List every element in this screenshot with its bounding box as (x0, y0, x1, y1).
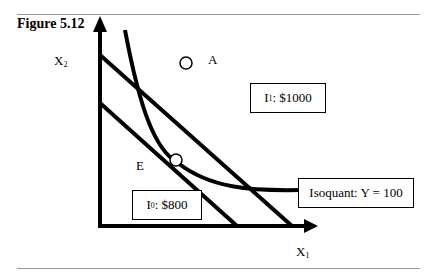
point-e-marker (170, 154, 182, 166)
y-axis-arrow-icon (93, 16, 107, 32)
x-axis-arrow-icon (304, 219, 318, 233)
i1-label-box: I1: $1000 (250, 83, 326, 113)
point-a-marker (180, 57, 192, 69)
point-a-label: A (208, 52, 217, 68)
y-axis-label: X2 (54, 53, 67, 69)
diagram-canvas (0, 0, 433, 274)
i0-label-box: I0: $800 (132, 190, 202, 220)
isoquant-label-box: Isoquant: Y = 100 (298, 178, 414, 208)
x-axis-label: X1 (296, 244, 309, 260)
bottom-rule (17, 268, 420, 269)
point-e-label: E (136, 158, 144, 174)
